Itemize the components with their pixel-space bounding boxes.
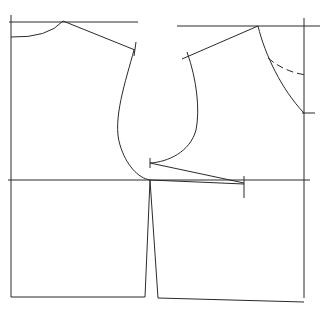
front-shoulder-line [182,26,258,59]
pattern-diagram [0,0,324,310]
back-side-seam [145,180,150,297]
front-side-seam [150,180,158,298]
front-hem-line [158,298,304,302]
back-neckline-curve [11,21,63,37]
back-armhole-curve [118,50,150,180]
front-neckline-curve [258,26,304,113]
front-armhole-curve [150,52,198,163]
dart-lower-leg [150,180,244,184]
front-neckline-dashed-curve [268,58,306,75]
back-shoulder-tick [134,42,136,56]
back-shoulder-line [63,21,135,50]
